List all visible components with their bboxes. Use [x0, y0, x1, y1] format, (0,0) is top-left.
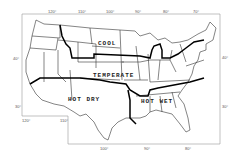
state-borders — [26, 20, 216, 140]
tick-top-110: 110° — [78, 9, 86, 14]
tick-top-80: 80° — [163, 9, 169, 14]
zone-label-cool: COOL — [98, 40, 116, 47]
tick-bottom-110: 110° — [60, 118, 68, 123]
tick-left-30: 30° — [15, 104, 21, 109]
tick-bottom-100: 100° — [100, 146, 108, 151]
tick-top-70: 70° — [193, 9, 199, 14]
tick-left-40: 40° — [13, 56, 19, 61]
tick-right-30: 30° — [222, 104, 228, 109]
hotdry-hotwet-boundary — [128, 90, 136, 124]
tick-top-90: 90° — [135, 9, 141, 14]
zone-label-hot-wet: HOT WET — [141, 98, 173, 105]
zone-label-hot-dry: HOT DRY — [68, 96, 100, 103]
tick-bottom-90: 90° — [144, 146, 150, 151]
tick-bottom-80: 80° — [185, 146, 191, 151]
map-frame — [22, 14, 220, 144]
us-climate-map — [0, 0, 244, 166]
tick-right-40: 40° — [222, 55, 228, 60]
tick-top-120: 120° — [48, 9, 56, 14]
tick-top-100: 100° — [106, 9, 114, 14]
zone-label-temperate: TEMPERATE — [93, 72, 134, 79]
tick-bottom-120: 120° — [22, 118, 30, 123]
